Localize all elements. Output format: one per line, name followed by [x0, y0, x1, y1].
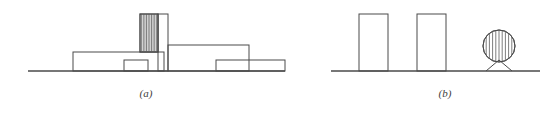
figure-container: (a) (b): [0, 0, 559, 114]
hatched-circle-hatching: [486, 30, 512, 62]
left-tall-block: [359, 14, 388, 71]
panel-a: (a): [28, 14, 285, 100]
circle-left-leg: [486, 60, 499, 71]
right-lower-step: [216, 60, 285, 71]
panel-b: (b): [331, 14, 540, 100]
hatched-tower: [140, 14, 158, 52]
circle-right-leg: [499, 60, 512, 71]
right-upper-block: [168, 45, 249, 71]
panel-label-b: (b): [439, 87, 452, 100]
technical-figure: (a) (b): [0, 0, 559, 114]
hatched-tower-outline: [140, 14, 158, 52]
panel-b-shapes: [359, 14, 515, 71]
tower-shaft: [158, 14, 168, 71]
panel-a-shapes: [73, 14, 285, 71]
panel-label-a: (a): [140, 87, 153, 100]
left-low-block: [73, 52, 164, 71]
low-block-inner-box: [124, 60, 148, 71]
right-tall-block: [417, 14, 446, 71]
hatched-tower-hatching: [142, 14, 157, 52]
